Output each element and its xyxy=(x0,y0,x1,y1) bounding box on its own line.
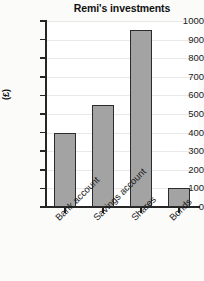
y-tick-mark xyxy=(40,95,45,97)
y-tick-label: 500 xyxy=(166,108,204,119)
y-axis-line xyxy=(45,20,47,208)
y-tick-label: 200 xyxy=(166,164,204,175)
bar xyxy=(92,105,114,207)
y-tick-mark xyxy=(40,206,45,208)
y-tick-mark xyxy=(40,150,45,152)
y-tick-mark xyxy=(40,169,45,171)
y-tick-label: 900 xyxy=(166,34,204,45)
y-tick-label: 1000 xyxy=(166,15,204,26)
y-tick-label: 800 xyxy=(166,52,204,63)
y-tick-mark xyxy=(40,132,45,134)
y-axis-label: (£) xyxy=(1,89,11,100)
y-tick-mark xyxy=(40,76,45,78)
chart-title: Remi's investments xyxy=(42,2,202,14)
y-tick-mark xyxy=(40,188,45,190)
bar-chart: Remi's investments (£) 01002003004005006… xyxy=(0,0,204,281)
y-tick-mark xyxy=(40,20,45,22)
y-tick-mark xyxy=(40,57,45,59)
y-tick-mark xyxy=(40,113,45,115)
y-tick-label: 300 xyxy=(166,145,204,156)
y-tick-label: 400 xyxy=(166,127,204,138)
y-tick-label: 600 xyxy=(166,89,204,100)
y-tick-mark xyxy=(40,39,45,41)
y-tick-label: 700 xyxy=(166,71,204,82)
